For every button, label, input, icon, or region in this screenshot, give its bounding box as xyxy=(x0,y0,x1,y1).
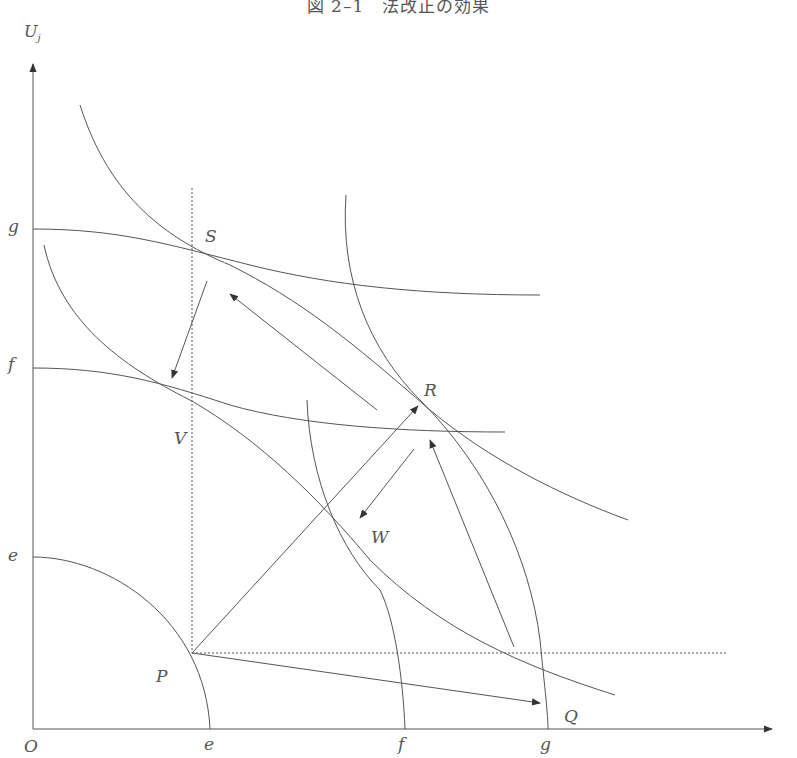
frontier-f xyxy=(307,400,405,729)
point-label-V: V xyxy=(174,428,186,448)
point-label-R: R xyxy=(424,380,437,400)
y-tick-e: e xyxy=(8,545,18,565)
point-label-S: S xyxy=(205,226,217,246)
curve-SR xyxy=(80,105,628,520)
diagram-canvas xyxy=(0,0,797,758)
indiff-curve-f xyxy=(33,368,505,432)
y-tick-g: g xyxy=(8,216,19,236)
y-axis-label: Uj xyxy=(24,22,41,43)
point-label-Q: Q xyxy=(564,706,578,726)
point-label-P: P xyxy=(156,666,167,686)
curve-VW xyxy=(44,245,615,695)
arrow-S-to-V xyxy=(172,281,207,378)
y-tick-f: f xyxy=(8,354,14,374)
point-label-W: W xyxy=(371,527,388,547)
indiff-curve-g xyxy=(33,229,540,295)
arrow-P-to-Q xyxy=(192,653,540,703)
arrow-to-S xyxy=(230,294,377,410)
frontier-g xyxy=(345,195,548,729)
x-tick-e: e xyxy=(204,734,214,754)
x-tick-g: g xyxy=(540,734,551,754)
frontier-e xyxy=(33,557,210,729)
arrow-R-to-W xyxy=(360,449,414,518)
arrow-Q-to-R xyxy=(430,440,514,647)
y-axis-label-main: U xyxy=(24,22,37,41)
x-tick-f: f xyxy=(398,734,404,754)
y-axis-label-sub: j xyxy=(37,32,40,43)
origin-label: O xyxy=(24,736,38,756)
